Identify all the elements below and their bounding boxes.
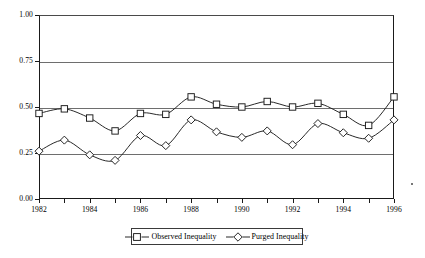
x-tick-mark [293, 199, 294, 203]
x-tick-mark [318, 199, 319, 203]
y-tick-label: 0.25 [0, 149, 33, 157]
x-tick-mark [242, 199, 243, 203]
x-tick-label: 1990 [220, 205, 264, 214]
x-tick-label: 1996 [372, 205, 416, 214]
x-tick-mark [140, 199, 141, 203]
x-tick-mark [39, 199, 40, 203]
x-tick-mark [369, 199, 370, 203]
legend-label-purged: Purged Inequality [252, 232, 309, 241]
x-tick-label: 1994 [321, 205, 365, 214]
plot-area [39, 15, 394, 199]
x-tick-mark [115, 199, 116, 203]
y-tick-label: 1.00 [0, 11, 33, 19]
x-tick-mark [343, 199, 344, 203]
y-tick-label: 0.50 [0, 103, 33, 111]
y-tick-label: 0.00 [0, 195, 33, 203]
y-tick-label: 0.75 [0, 57, 33, 65]
x-tick-mark [90, 199, 91, 203]
x-tick-mark [267, 199, 268, 203]
legend: Observed Inequality Purged Inequality [131, 228, 303, 245]
x-tick-label: 1984 [68, 205, 112, 214]
x-tick-label: 1982 [17, 205, 61, 214]
x-tick-mark [217, 199, 218, 203]
scan-artifact [411, 183, 413, 185]
x-tick-mark [64, 199, 65, 203]
x-tick-label: 1992 [271, 205, 315, 214]
gridline [40, 62, 393, 63]
diamond-marker-icon [226, 232, 250, 242]
x-tick-mark [394, 199, 395, 203]
legend-entry-observed: Observed Inequality [125, 232, 216, 242]
square-marker-icon [125, 232, 149, 242]
line-chart: 0.000.250.500.751.00 1982198419861988199… [0, 0, 425, 258]
x-tick-label: 1988 [169, 205, 213, 214]
legend-label-observed: Observed Inequality [151, 232, 216, 241]
x-tick-mark [191, 199, 192, 203]
gridline [40, 108, 393, 109]
x-tick-mark [166, 199, 167, 203]
legend-entry-purged: Purged Inequality [226, 232, 309, 242]
x-tick-label: 1986 [118, 205, 162, 214]
gridline [40, 154, 393, 155]
